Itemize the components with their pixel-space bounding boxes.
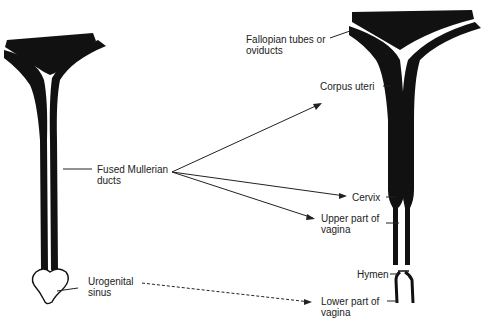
urogenital-sinus [32,269,68,304]
label-cervix: Cervix [352,192,380,203]
label-lower-vagina-line2: vagina [321,307,379,318]
label-corpus-uteri: Corpus uteri [320,81,374,92]
label-fused-mullerian-line1: Fused Mullerian [97,164,168,175]
hymen-lower-vagina [396,272,413,303]
label-upper-vagina-line2: vagina [321,224,379,235]
label-hymen: Hymen [357,269,389,280]
label-upper-vagina-line1: Upper part of [321,213,379,224]
left-mullerian-ducts [3,33,106,270]
label-fused-mullerian-line2: ducts [97,175,168,186]
label-upper-vagina: Upper part of vagina [321,213,379,235]
label-urogenital-line1: Urogenital [88,276,134,287]
label-urogenital-line2: sinus [88,287,134,298]
label-lower-vagina: Lower part of vagina [321,296,379,318]
label-fused-mullerian: Fused Mullerian ducts [97,164,168,186]
label-fallopian-line2: oviducts [246,45,326,56]
label-urogenital-sinus: Urogenital sinus [88,276,134,298]
label-lower-vagina-line1: Lower part of [321,296,379,307]
label-fallopian-line1: Fallopian tubes or [246,34,326,45]
label-fallopian-tubes: Fallopian tubes or oviducts [246,34,326,56]
